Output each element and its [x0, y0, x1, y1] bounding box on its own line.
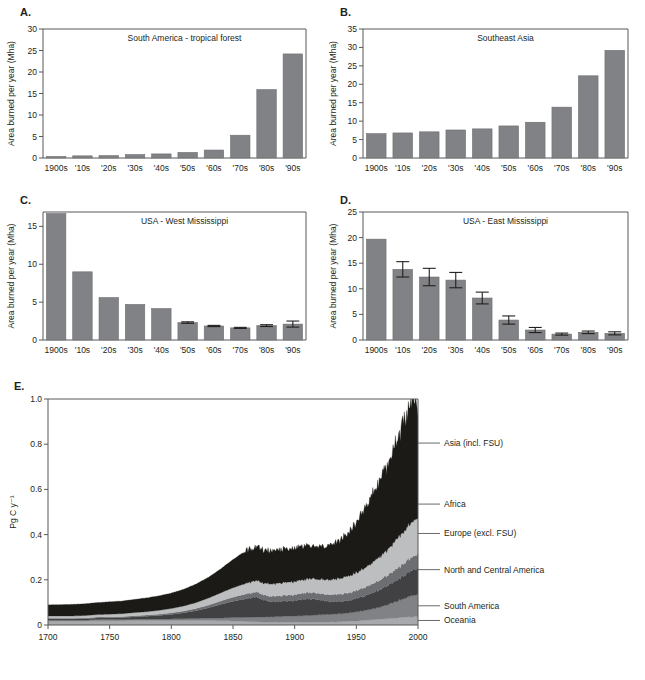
bar [499, 126, 519, 158]
y-tick-label: 20 [348, 233, 358, 243]
panel-d-letter: D. [340, 194, 351, 206]
x-tick-label: '70s [233, 163, 248, 173]
y-tick-label: 15 [28, 221, 38, 231]
y-tick-label: 25 [28, 46, 38, 56]
legend-label: Asia (incl. FSU) [444, 438, 503, 448]
x-tick-label: '20s [101, 163, 116, 173]
panel-title: Southeast Asia [477, 33, 534, 43]
bar [204, 326, 223, 340]
bar [605, 50, 625, 158]
bar [446, 280, 466, 340]
y-tick-label: 20 [28, 67, 38, 77]
bar [366, 239, 386, 340]
x-tick-label: '10s [75, 163, 90, 173]
y-tick-label: 0 [352, 153, 357, 163]
x-tick-label: '10s [395, 163, 410, 173]
x-tick-label: 1850 [224, 632, 243, 642]
x-tick-label: '80s [259, 163, 274, 173]
bar [472, 129, 492, 158]
y-tick-label: 0.2 [30, 575, 42, 585]
y-tick-label: 35 [348, 24, 358, 34]
x-tick-label: '10s [75, 345, 90, 355]
y-axis-title: Pg C y⁻¹ [8, 495, 18, 529]
x-tick-label: '90s [607, 345, 622, 355]
y-tick-label: 30 [348, 42, 358, 52]
legend-label: Oceania [444, 615, 476, 625]
x-tick-label: '70s [233, 345, 248, 355]
y-tick-label: 10 [348, 116, 358, 126]
x-tick-label: 1900s [365, 345, 388, 355]
panel-d-chart: 0510152025Area burned per year (Mha)USA … [322, 190, 642, 375]
x-tick-label: '20s [422, 163, 437, 173]
y-tick-label: 5 [352, 135, 357, 145]
bar [419, 132, 439, 158]
y-tick-label: 20 [348, 79, 358, 89]
legend-label: Africa [444, 499, 466, 509]
panel-title: USA - West Mississippi [141, 216, 228, 226]
y-axis-title: Area burned per year (Mha) [6, 223, 16, 328]
bar [152, 309, 171, 340]
bar [204, 150, 223, 158]
x-tick-label: '20s [101, 345, 116, 355]
panel-e-chart: 00.20.40.60.81.0170017501800185019001950… [0, 375, 645, 680]
y-tick-label: 5 [32, 297, 37, 307]
panel-b-letter: B. [340, 6, 351, 18]
x-tick-label: '70s [554, 163, 569, 173]
x-tick-label: 1900 [285, 632, 304, 642]
x-tick-label: 1700 [39, 632, 58, 642]
y-tick-label: 0.4 [30, 530, 42, 540]
x-tick-label: '90s [285, 345, 300, 355]
x-tick-label: '60s [206, 163, 221, 173]
y-tick-label: 30 [28, 24, 38, 34]
y-tick-label: 5 [32, 132, 37, 142]
y-tick-label: 15 [28, 89, 38, 99]
fire-emissions-figure: A. 051015202530Area burned per year (Mha… [0, 0, 645, 680]
y-axis-title: Area burned per year (Mha) [328, 223, 338, 328]
legend-label: North and Central America [444, 565, 544, 575]
x-tick-label: '30s [127, 345, 142, 355]
x-tick-label: '40s [154, 163, 169, 173]
y-tick-label: 0 [32, 335, 37, 345]
bar [152, 154, 171, 158]
y-tick-label: 0.8 [30, 439, 42, 449]
y-tick-label: 1.0 [30, 394, 42, 404]
bar [73, 272, 92, 340]
panel-a-chart: 051015202530Area burned per year (Mha)So… [0, 0, 320, 190]
x-tick-label: '60s [528, 345, 543, 355]
error-bar [234, 327, 247, 328]
x-tick-label: '30s [448, 345, 463, 355]
panel-a-letter: A. [20, 6, 31, 18]
panel-b: B. 05101520253035Area burned per year (M… [322, 0, 642, 190]
stacked-areas [48, 388, 418, 625]
bar [73, 156, 92, 158]
y-tick-label: 0 [32, 153, 37, 163]
y-tick-label: 0 [352, 335, 357, 345]
x-tick-label: 1900s [45, 345, 68, 355]
x-tick-label: '40s [154, 345, 169, 355]
bar [46, 156, 65, 158]
bar [125, 155, 144, 158]
x-tick-label: '80s [259, 345, 274, 355]
bar [552, 107, 572, 158]
y-tick-label: 0 [37, 620, 42, 630]
x-tick-label: 1900s [45, 163, 68, 173]
x-tick-label: 1900s [365, 163, 388, 173]
panel-title: USA - East Mississippi [463, 216, 548, 226]
x-tick-label: '50s [501, 163, 516, 173]
panel-b-chart: 05101520253035Area burned per year (Mha)… [322, 0, 642, 190]
x-tick-label: '70s [554, 345, 569, 355]
y-axis-title: Area burned per year (Mha) [328, 41, 338, 146]
panel-d: D. 0510152025Area burned per year (Mha)U… [322, 190, 642, 375]
y-tick-label: 10 [28, 259, 38, 269]
x-tick-label: '20s [422, 345, 437, 355]
x-tick-label: '50s [501, 345, 516, 355]
panel-c: C. 051015Area burned per year (Mha)USA -… [0, 190, 320, 375]
bar [578, 76, 598, 158]
bar [283, 54, 302, 158]
x-tick-label: 1800 [162, 632, 181, 642]
bar [366, 134, 386, 158]
bar [231, 135, 250, 158]
legend-label: Europe (excl. FSU) [444, 528, 516, 538]
panel-e-letter: E. [14, 380, 24, 392]
bar [178, 152, 197, 158]
